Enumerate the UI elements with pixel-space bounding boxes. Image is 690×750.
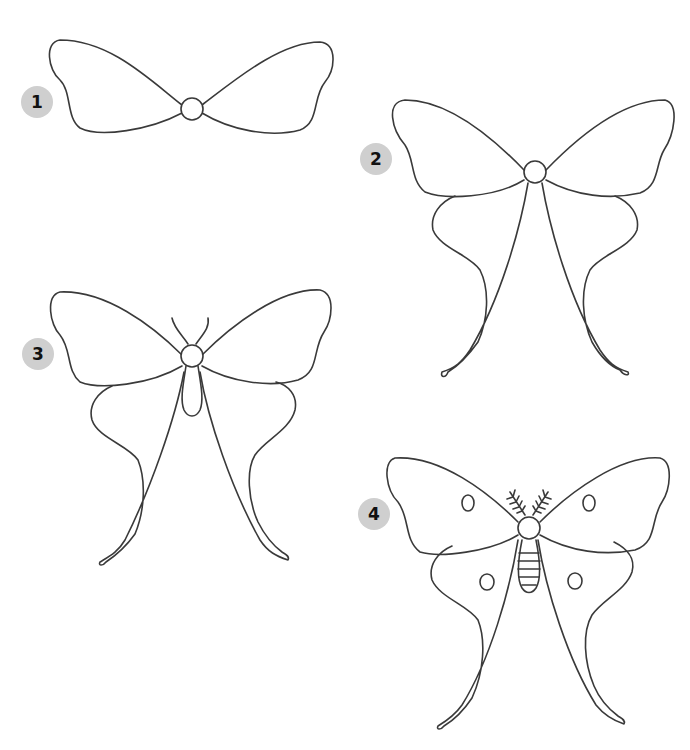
forewing-eyespot-right (583, 495, 595, 511)
step-4-drawing (0, 0, 690, 750)
hindwing-eyespot-right (568, 573, 582, 589)
feathered-antennae (507, 490, 551, 515)
hindwing-eyespot-left (480, 574, 494, 590)
forewing-eyespot-left (462, 495, 474, 511)
